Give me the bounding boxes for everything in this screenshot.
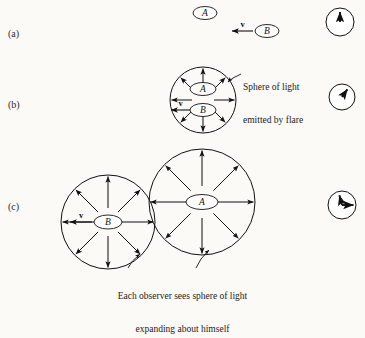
panel-a-group: ABv	[193, 7, 354, 38]
panel-b-observer-a-label: A	[199, 84, 206, 94]
sphere-of-light-caption: Sphere of light emitted by flare	[243, 60, 303, 148]
panel-c-a-ray	[213, 166, 238, 191]
panel-c-b-ray	[76, 232, 98, 254]
panel-c-a-ray	[213, 213, 238, 238]
each-observer-caption: Each observer sees sphere of light expan…	[70, 269, 295, 338]
observer-caption-line2: expanding about himself	[70, 324, 295, 335]
panel-label-a: (a)	[8, 28, 19, 39]
sphere-caption-line2: emitted by flare	[243, 115, 303, 126]
observer-caption-line1: Each observer sees sphere of light	[70, 291, 295, 302]
panel-c-a-ray	[166, 166, 191, 191]
panel-c-b-ray	[118, 190, 140, 212]
panel-c-group: BAv	[61, 149, 356, 269]
panel-b-observer-b-label: B	[200, 105, 206, 115]
panel-a-observer-b-label: B	[264, 26, 270, 36]
sphere-caption-line1: Sphere of light	[243, 82, 303, 93]
panel-b-velocity-label: v	[178, 98, 183, 108]
panel-c-velocity-label: v	[79, 210, 84, 220]
panel-a-observer-a-label: A	[201, 8, 208, 18]
panel-a-velocity-label: v	[240, 19, 245, 29]
panel-c-observer-a-label: A	[198, 197, 205, 207]
panel-c-b-ray	[118, 232, 140, 254]
panel-label-c: (c)	[8, 201, 19, 212]
panel-label-b: (b)	[8, 99, 20, 110]
panel-c-observer-b-label: B	[105, 217, 111, 227]
panel-c-a-ray	[166, 213, 191, 238]
